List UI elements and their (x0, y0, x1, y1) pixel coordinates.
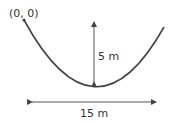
height-label: 5 m (98, 51, 119, 62)
origin-label: (0, 0) (9, 8, 39, 19)
width-label: 15 m (80, 108, 108, 119)
